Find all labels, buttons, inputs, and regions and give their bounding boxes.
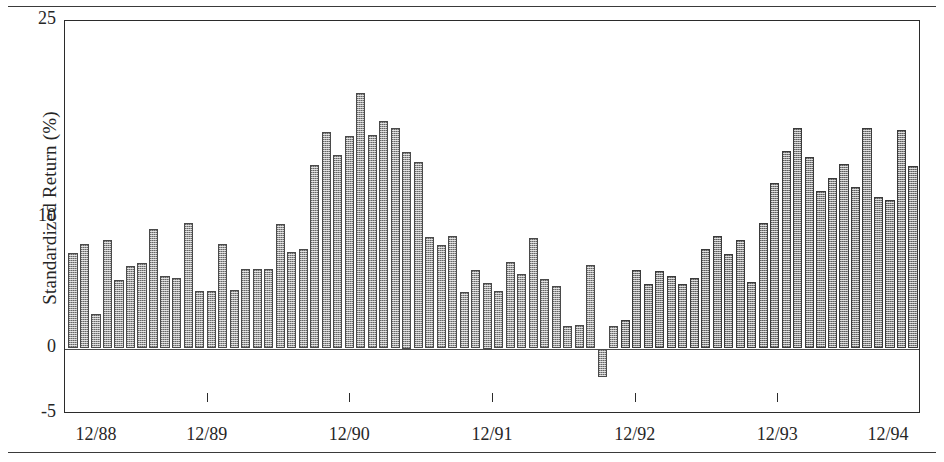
bar [713,236,722,349]
y-axis-tick-label: 0 [10,336,56,357]
bar [241,269,250,349]
bar [195,291,204,349]
bar [310,165,319,348]
bar [184,223,193,349]
bar [667,276,676,348]
bar [736,240,745,349]
bar [897,130,906,349]
bar [160,276,169,348]
x-axis-tick-label: 12/90 [314,424,384,445]
x-axis-tick [777,393,778,402]
bar [724,254,733,348]
bar [437,245,446,348]
bar [563,326,572,348]
y-axis-tick-label: 10 [10,205,56,226]
x-axis-tick-label: 12/93 [742,424,812,445]
bar [114,280,123,348]
bar [402,152,411,349]
bar [103,240,112,349]
x-axis-tick-label: 12/89 [172,424,242,445]
bar [356,93,365,348]
bar [759,223,768,349]
bar [149,229,158,348]
bar [517,274,526,349]
bar [368,135,377,349]
x-axis-tick [492,393,493,402]
bar [230,290,239,349]
bar [851,187,860,348]
bar [690,278,699,349]
bar [379,121,388,349]
bar [540,279,549,348]
x-axis-tick-label: 12/91 [457,424,527,445]
chart-figure: Standardized Return (%) -501025 12/8812/… [0,0,944,462]
bar [345,136,354,348]
bar [598,349,607,378]
bar [874,197,883,349]
bar [885,200,894,348]
bar [529,238,538,348]
bar [299,249,308,349]
x-axis-tick [207,393,208,402]
bar [770,183,779,348]
bar [655,271,664,348]
x-axis-tick-label: 12/92 [600,424,670,445]
bar [793,128,802,348]
bar [609,326,618,348]
bar [264,269,273,349]
bar [701,249,710,349]
bar [137,263,146,348]
bar [586,265,595,349]
bar [218,244,227,349]
bar [494,291,503,349]
bar [908,166,917,348]
bar [391,128,400,348]
bar [747,282,756,349]
bar [287,252,296,349]
bar [839,164,848,349]
bar [460,292,469,348]
bar [552,286,561,349]
bar [414,162,423,348]
x-axis-tick-label: 12/94 [853,424,923,445]
bar [828,178,837,348]
bar [333,155,342,349]
bar [632,270,641,349]
x-axis-tick [635,393,636,402]
y-axis-tick-label: 25 [10,8,56,29]
bar [506,262,515,348]
bar [862,128,871,348]
bar [805,157,814,348]
bar [575,325,584,349]
bottom-divider-rule [8,452,936,453]
bar [782,151,791,349]
y-axis-tick-label: -5 [10,401,56,422]
bar [207,291,216,349]
bar [483,283,492,349]
plot-area [64,20,920,413]
x-axis-tick-label: 12/88 [61,424,131,445]
bar [91,314,100,348]
bar [644,284,653,348]
bar [471,270,480,349]
bar [322,132,331,348]
bar [425,237,434,348]
bar [276,224,285,348]
bar [172,278,181,349]
bar [68,253,77,349]
bar [678,284,687,348]
bar [816,191,825,348]
bar [448,236,457,349]
bar [253,269,262,349]
bar-series [65,21,919,412]
bar [80,244,89,349]
top-divider-rule [8,6,936,7]
x-axis-tick [349,393,350,402]
bar [621,320,630,349]
bar [126,266,135,349]
